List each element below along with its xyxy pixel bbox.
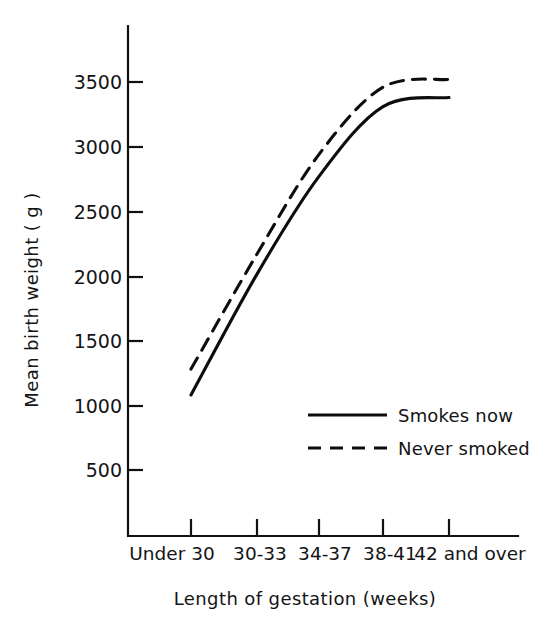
y-axis-ticks	[128, 82, 143, 470]
axis-lines	[128, 26, 518, 536]
y-tick-label-3000: 3000	[74, 136, 122, 158]
y-tick-label-3500: 3500	[74, 71, 122, 93]
x-axis-tick-labels: Under 30 30-33 34-37 38-41 42 and over	[129, 543, 526, 564]
y-axis-tick-labels: 3500 3000 2500 2000 1500 1000 500	[74, 71, 122, 481]
legend-label-never-smoked: Never smoked	[398, 438, 530, 459]
x-axis-title: Length of gestation (weeks)	[174, 588, 437, 609]
y-tick-label-1000: 1000	[74, 395, 122, 417]
x-tick-label-under-30: Under 30	[129, 543, 214, 564]
chart-legend: Smokes now Never smoked	[308, 405, 530, 459]
y-tick-label-2500: 2500	[74, 201, 122, 223]
chart-canvas: 3500 3000 2500 2000 1500 1000 500 Under …	[0, 0, 555, 625]
legend-label-smokes-now: Smokes now	[398, 405, 513, 426]
x-tick-label-38-41: 38-41	[363, 543, 417, 564]
series-line-smokes-now	[191, 98, 449, 396]
x-tick-label-30-33: 30-33	[233, 543, 287, 564]
x-tick-label-34-37: 34-37	[298, 543, 352, 564]
y-axis-title: Mean birth weight ( g )	[21, 192, 42, 407]
y-tick-label-500: 500	[86, 459, 122, 481]
y-tick-label-2000: 2000	[74, 266, 122, 288]
chart-figure: 3500 3000 2500 2000 1500 1000 500 Under …	[0, 0, 555, 625]
x-tick-label-42-and-over: 42 and over	[414, 543, 526, 564]
x-axis-ticks	[191, 519, 449, 536]
y-tick-label-1500: 1500	[74, 330, 122, 352]
